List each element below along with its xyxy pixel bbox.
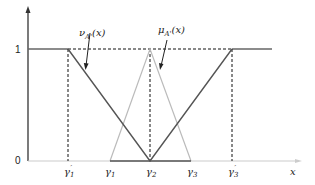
y-tick-0: 0 — [15, 155, 21, 166]
x-tick-gamma2: γ2 — [146, 166, 157, 179]
x-tick-gamma3: γ3 — [187, 166, 198, 179]
membership-function-diagram: 1 0 νA'(x) μA'(x) γ1′ γ1 γ2 γ3 γ3′ x — [0, 0, 315, 185]
x-axis-label: x — [290, 166, 296, 177]
x-tick-gamma1: γ1 — [105, 166, 115, 179]
nu-label: νA'(x) — [79, 27, 106, 41]
x-tick-gamma3-prime: γ3′ — [228, 164, 239, 179]
x-tick-gamma1-prime: γ1′ — [64, 164, 74, 179]
x-axis-arrow-icon — [295, 159, 302, 163]
diagram-canvas: 1 0 νA'(x) μA'(x) γ1′ γ1 γ2 γ3 γ3′ x — [0, 0, 315, 185]
mu-pointer — [161, 40, 167, 66]
y-tick-1: 1 — [15, 44, 21, 55]
mu-pointer-arrow-icon — [159, 63, 164, 70]
y-axis-arrow-icon — [26, 6, 31, 13]
nu-pointer-arrow-icon — [84, 63, 89, 70]
mu-label: μA'(x) — [158, 24, 185, 38]
